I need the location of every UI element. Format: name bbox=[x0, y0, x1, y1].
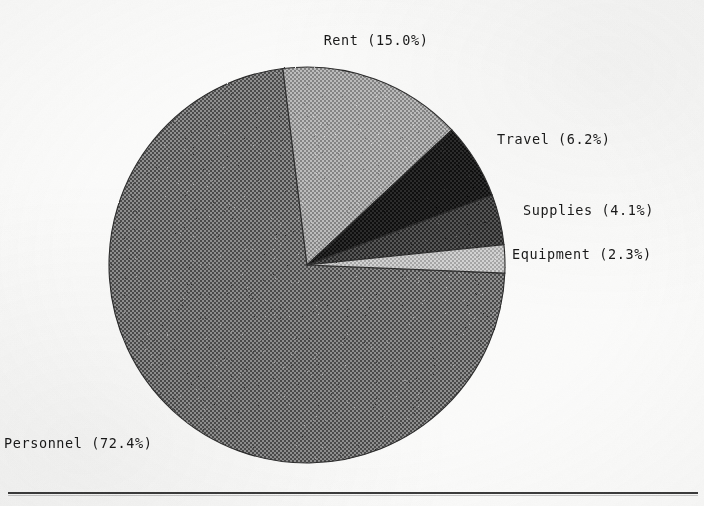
page-bottom-rule-shadow bbox=[8, 495, 698, 496]
pie-label-equipment: Equipment (2.3%) bbox=[512, 246, 652, 262]
page-bottom-rule bbox=[8, 492, 698, 494]
pie-label-travel: Travel (6.2%) bbox=[497, 131, 610, 147]
pie-label-supplies: Supplies (4.1%) bbox=[523, 202, 654, 218]
pie-chart-figure: Rent (15.0%) Travel (6.2%) Supplies (4.1… bbox=[0, 0, 704, 506]
pie-label-personnel: Personnel (72.4%) bbox=[4, 435, 152, 451]
pie-chart-page: Rent (15.0%) Travel (6.2%) Supplies (4.1… bbox=[0, 0, 704, 506]
pie-label-rent: Rent (15.0%) bbox=[324, 32, 429, 48]
